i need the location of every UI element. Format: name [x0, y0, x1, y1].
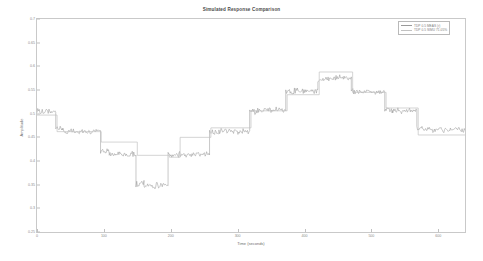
x-tick-label: 500 — [368, 234, 374, 238]
x-tick-mark — [238, 229, 239, 232]
legend-swatch-simu — [401, 30, 412, 31]
y-axis-label: Amplitude — [19, 98, 24, 158]
y-tick-mark — [37, 19, 40, 20]
x-tick-label: 600 — [435, 234, 441, 238]
y-tick-label: 0.25 — [28, 230, 35, 234]
x-tick-mark — [171, 229, 172, 232]
x-tick-label: 200 — [168, 234, 174, 238]
x-tick-label: 100 — [101, 234, 107, 238]
x-axis-label: Time (seconds) — [36, 241, 466, 246]
plot-area: 0.250.30.350.40.450.50.550.60.650.7 0100… — [36, 18, 466, 233]
x-tick-label: 300 — [235, 234, 241, 238]
y-tick-label: 0.55 — [28, 88, 35, 92]
y-tick-label: 0.6 — [30, 64, 35, 68]
y-tick-label: 0.4 — [30, 159, 35, 163]
legend-label-meas: TDP 0.5 MEAS (r) — [414, 24, 440, 28]
x-tick-mark — [104, 229, 105, 232]
plot-svg — [37, 19, 465, 232]
x-tick-mark — [371, 229, 372, 232]
y-tick-mark — [37, 137, 40, 138]
x-tick-mark — [438, 229, 439, 232]
y-tick-label: 0.65 — [28, 41, 35, 45]
y-tick-mark — [37, 113, 40, 114]
y-tick-label: 0.5 — [30, 112, 35, 116]
legend-label-simu: TDP 0.5 SIMU 71.05% — [414, 28, 447, 32]
series-line — [37, 72, 465, 157]
x-tick-mark — [305, 229, 306, 232]
y-tick-mark — [37, 42, 40, 43]
y-tick-label: 0.35 — [28, 183, 35, 187]
y-tick-label: 0.3 — [30, 206, 35, 210]
legend: TDP 0.5 MEAS (r) TDP 0.5 SIMU 71.05% — [398, 21, 450, 35]
chart-title: Simulated Response Comparison — [0, 7, 483, 12]
y-tick-mark — [37, 184, 40, 185]
x-tick-label: 0 — [36, 234, 38, 238]
x-tick-label: 400 — [302, 234, 308, 238]
y-tick-mark — [37, 89, 40, 90]
legend-swatch-meas — [401, 25, 412, 26]
y-tick-label: 0.7 — [30, 17, 35, 21]
y-tick-label: 0.45 — [28, 135, 35, 139]
series-layer — [37, 72, 465, 189]
figure-canvas: Simulated Response Comparison 0.250.30.3… — [0, 0, 483, 261]
y-tick-mark — [37, 160, 40, 161]
x-tick-mark — [37, 229, 38, 232]
y-tick-mark — [37, 66, 40, 67]
legend-item: TDP 0.5 SIMU 71.05% — [401, 28, 447, 33]
y-tick-mark — [37, 208, 40, 209]
